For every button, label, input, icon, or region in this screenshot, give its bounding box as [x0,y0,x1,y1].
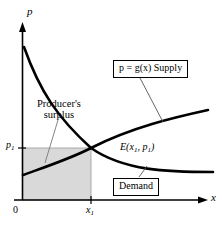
origin-label: 0 [13,205,18,216]
equilibrium-prefix: E(x [120,141,134,152]
producer-surplus-line1: Producer's [37,98,81,109]
equilibrium-point-label: E(x1, p1) [120,142,154,154]
x-axis-arrowhead [198,197,208,204]
producer-surplus-shading [23,148,92,200]
equilibrium-middle: , p [137,141,147,152]
producer-surplus-line2: surplus [44,109,74,120]
x-tick-label-x1: x1 [86,205,94,217]
demand-label-box: Demand [113,178,159,196]
y-axis-arrowhead [19,22,26,32]
supply-label-leader-line [140,78,163,122]
x-axis-label: x [211,192,216,204]
producer-surplus-label: Producer'ssurplus [37,98,81,120]
y-tick-label-subscript: 1 [11,144,15,152]
supply-label-box: p = g(x) Supply [113,60,188,78]
x-tick-label-subscript: 1 [90,209,94,217]
equilibrium-suffix: ) [151,141,154,152]
y-axis-label: p [27,6,33,18]
supply-demand-figure [0,0,222,229]
y-tick-label-p1: p1 [6,140,15,152]
